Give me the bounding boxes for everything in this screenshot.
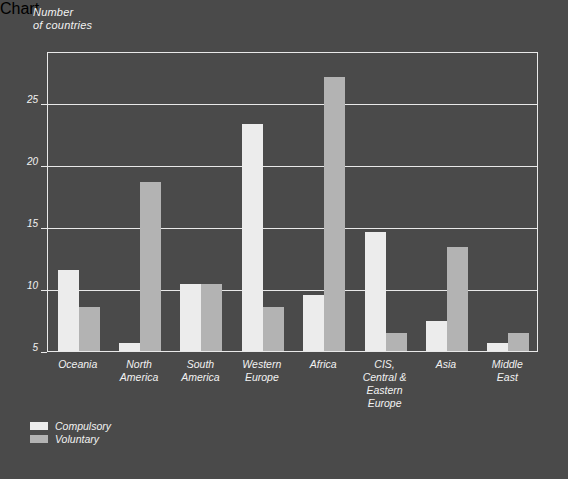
legend-swatch-compulsory: [30, 422, 48, 430]
bar-group: [416, 52, 477, 351]
bar-group: [355, 52, 416, 351]
bar-group: [48, 52, 109, 351]
bar-compulsory: [365, 232, 386, 351]
legend-item-voluntary: Voluntary: [30, 432, 111, 445]
x-axis-label: Western Europe: [231, 358, 292, 384]
bar-series-layer: [48, 52, 537, 351]
x-axis-label: Middle East: [477, 358, 538, 384]
x-axis-label: Asia: [415, 358, 476, 371]
y-axis-title: Number of countries: [33, 6, 92, 32]
bar-compulsory: [58, 270, 79, 351]
x-axis-line: [47, 351, 538, 352]
y-tick-5: [41, 352, 47, 353]
bar-group: [171, 52, 232, 351]
bar-voluntary: [324, 77, 345, 351]
x-axis-label: Oceania: [47, 358, 108, 371]
x-axis-label: North America: [108, 358, 169, 384]
bar-compulsory: [242, 124, 263, 351]
bar-compulsory: [426, 321, 447, 351]
y-tick-label-15: 15: [27, 218, 38, 229]
y-tick-20: [41, 166, 47, 167]
legend-label-voluntary: Voluntary: [55, 433, 99, 445]
bar-voluntary: [79, 307, 100, 351]
chart-legend: Compulsory Voluntary: [30, 419, 111, 445]
bar-voluntary: [263, 307, 284, 351]
chart-canvas: Number of countries 510152025 OceaniaNor…: [0, 0, 568, 479]
y-tick-label-25: 25: [27, 94, 38, 105]
x-axis-label: South America: [170, 358, 231, 384]
x-axis-label: Africa: [293, 358, 354, 371]
bar-compulsory: [487, 343, 508, 351]
y-tick-15: [41, 228, 47, 229]
bar-voluntary: [140, 182, 161, 351]
y-tick-label-5: 5: [32, 342, 38, 353]
bar-compulsory: [180, 284, 201, 351]
x-axis-label: CIS, Central & Eastern Europe: [354, 358, 415, 410]
y-tick-label-10: 10: [27, 280, 38, 291]
y-tick-25: [41, 104, 47, 105]
legend-item-compulsory: Compulsory: [30, 419, 111, 432]
legend-swatch-voluntary: [30, 435, 48, 443]
bar-voluntary: [508, 333, 529, 351]
bar-group: [109, 52, 170, 351]
bar-compulsory: [119, 343, 140, 351]
plot-area: 510152025: [47, 52, 538, 352]
bar-group: [478, 52, 539, 351]
y-tick-label-20: 20: [27, 156, 38, 167]
bar-voluntary: [201, 284, 222, 351]
y-tick-10: [41, 290, 47, 291]
bar-voluntary: [447, 247, 468, 351]
bar-group: [232, 52, 293, 351]
legend-label-compulsory: Compulsory: [55, 420, 111, 432]
bar-compulsory: [303, 295, 324, 351]
x-axis-labels: OceaniaNorth AmericaSouth AmericaWestern…: [47, 358, 538, 414]
bar-group: [294, 52, 355, 351]
bar-voluntary: [386, 333, 407, 351]
